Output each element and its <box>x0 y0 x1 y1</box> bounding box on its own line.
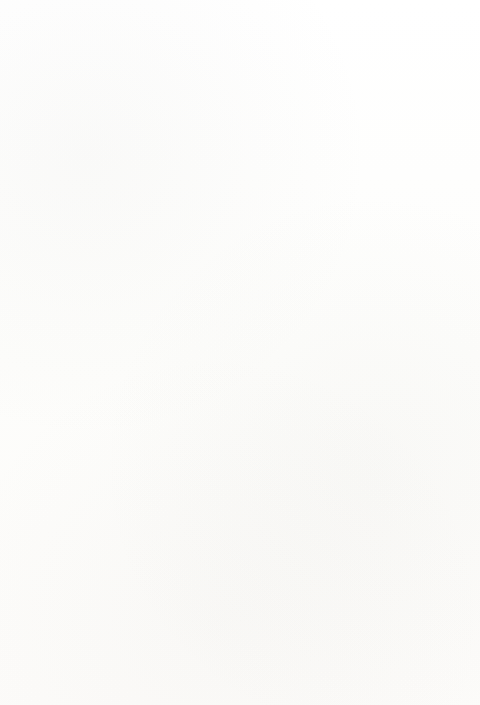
node-semicolon-label: semicolon <box>298 330 336 338</box>
node-untie[interactable]: untie <box>291 150 378 166</box>
node-portable-label: portable <box>298 134 329 142</box>
connector-leaf-taint <box>278 38 291 39</box>
node-printf[interactable]: printf <box>291 446 378 462</box>
node-digit-label: digit <box>298 390 314 398</box>
connector-leaf-parenthesis <box>278 414 291 415</box>
node-reserved[interactable]: reserved <box>291 366 378 382</box>
node-ambiguous-label: ambiguous <box>298 310 339 318</box>
node-redefine-label: redefine <box>182 602 213 610</box>
node-redefine[interactable]: redefine <box>175 598 265 614</box>
connector-severe-in <box>154 496 165 497</box>
connector-io-in <box>154 246 165 247</box>
node-closed[interactable]: closed <box>291 238 378 254</box>
node-parenthesis[interactable]: parenthesis <box>291 406 378 422</box>
node-numeric[interactable]: numeric <box>175 618 265 634</box>
node-pipe[interactable]: pipe <box>291 198 378 214</box>
node-internal[interactable]: internal <box>291 490 378 506</box>
node-overflow-label: overflow <box>298 114 330 122</box>
node-reserved-label: reserved <box>298 370 331 378</box>
node-exec-label: exec <box>298 282 316 290</box>
node-taint[interactable]: taint <box>291 30 378 46</box>
connector-leaf-overflow <box>278 118 291 119</box>
node-unsafe-label: unsafe <box>172 104 197 112</box>
node-unopened-label: unopened <box>298 222 336 230</box>
node-debugging-label: debugging <box>298 514 338 522</box>
node-deprecated-label: deprecated <box>298 430 340 438</box>
connector-root-trunk <box>154 108 155 666</box>
connector-leaf-recursion <box>154 586 175 587</box>
node-signal[interactable]: signal <box>291 70 378 86</box>
node-parenthesis-label: parenthesis <box>298 410 342 418</box>
node-numeric-label: numeric <box>182 622 212 630</box>
node-void-label: void <box>182 562 198 570</box>
connector-leaf-signal <box>278 78 291 79</box>
node-once[interactable]: once <box>175 638 265 654</box>
node-utf8[interactable]: utf8 <box>291 170 378 186</box>
node-deprecated[interactable]: deprecated <box>291 426 378 442</box>
node-closed-label: closed <box>298 242 323 250</box>
node-void[interactable]: void <box>175 558 265 574</box>
connector-leaf-closure <box>278 98 291 99</box>
connector-leaf-once <box>154 646 175 647</box>
node-severe[interactable]: severe <box>165 488 255 504</box>
node-pipe-label: pipe <box>298 202 314 210</box>
node-unopened[interactable]: unopened <box>291 218 378 234</box>
connector-leaf-utf8 <box>278 178 291 179</box>
node-misc[interactable]: misc <box>175 658 265 674</box>
node-internal-label: internal <box>298 494 326 502</box>
node-recursion[interactable]: recursion <box>175 578 265 594</box>
node-portable[interactable]: portable <box>291 130 378 146</box>
node-exec[interactable]: exec <box>291 278 378 294</box>
node-utf8-label: utf8 <box>298 174 312 182</box>
node-overflow[interactable]: overflow <box>291 110 378 126</box>
connector-leaf-deprecated <box>278 434 291 435</box>
node-substr[interactable]: substr <box>291 50 378 66</box>
node-precedence-label: precedence <box>298 350 342 358</box>
connector-syntax-in <box>154 402 165 403</box>
connector-leaf-inplace <box>278 478 291 479</box>
connector-leaf-exec <box>278 286 291 287</box>
node-all[interactable]: all <box>88 355 135 371</box>
node-printf-label: printf <box>298 450 317 458</box>
node-syntax[interactable]: syntax <box>165 394 255 410</box>
connector-io-out <box>255 246 278 247</box>
connector-leaf-closed <box>278 246 291 247</box>
node-syntax-label: syntax <box>172 398 197 406</box>
connector-leaf-void <box>154 566 175 567</box>
node-newline[interactable]: newline <box>291 258 378 274</box>
node-inplace[interactable]: inplace <box>291 470 378 486</box>
node-semicolon[interactable]: semicolon <box>291 326 378 342</box>
node-io[interactable]: io <box>165 238 255 254</box>
connector-leaf-internal <box>278 498 291 499</box>
node-inplace-label: inplace <box>298 474 325 482</box>
node-taint-label: taint <box>298 34 314 42</box>
node-precedence[interactable]: precedence <box>291 346 378 362</box>
node-recursion-label: recursion <box>182 582 217 590</box>
node-once-label: once <box>182 642 200 650</box>
node-uninitialized-label: uninitialized <box>182 542 227 550</box>
node-untie-label: untie <box>298 154 317 162</box>
connector-leaf-misc <box>154 666 175 667</box>
node-substr-label: substr <box>298 54 321 62</box>
connector-unsafe-out <box>255 108 278 109</box>
node-all-label: all <box>95 359 104 367</box>
node-signal-label: signal <box>298 74 320 82</box>
node-ambiguous[interactable]: ambiguous <box>291 306 378 322</box>
node-uninitialized[interactable]: uninitialized <box>175 538 265 554</box>
diagram-page: allunsafetaintsubstrsignalclosureoverflo… <box>0 0 480 705</box>
node-newline-label: newline <box>298 262 327 270</box>
node-io-label: io <box>172 242 179 250</box>
connector-leaf-debugging <box>278 518 291 519</box>
connector-leaf-untie <box>278 158 291 159</box>
node-closure[interactable]: closure <box>291 90 378 106</box>
node-debugging[interactable]: debugging <box>291 510 378 526</box>
connector-root-stub <box>135 363 154 364</box>
connector-leaf-printf <box>278 454 291 455</box>
node-severe-label: severe <box>172 492 197 500</box>
connector-leaf-newline <box>278 266 291 267</box>
connector-severe-out <box>255 496 278 497</box>
node-closure-label: closure <box>298 94 325 102</box>
node-digit[interactable]: digit <box>291 386 378 402</box>
node-unsafe[interactable]: unsafe <box>165 100 255 116</box>
connector-leaf-substr <box>278 58 291 59</box>
